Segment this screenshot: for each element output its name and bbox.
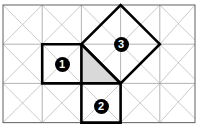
geometry-figure	[0, 0, 198, 128]
diagram-canvas: 1 2 3	[0, 0, 198, 128]
